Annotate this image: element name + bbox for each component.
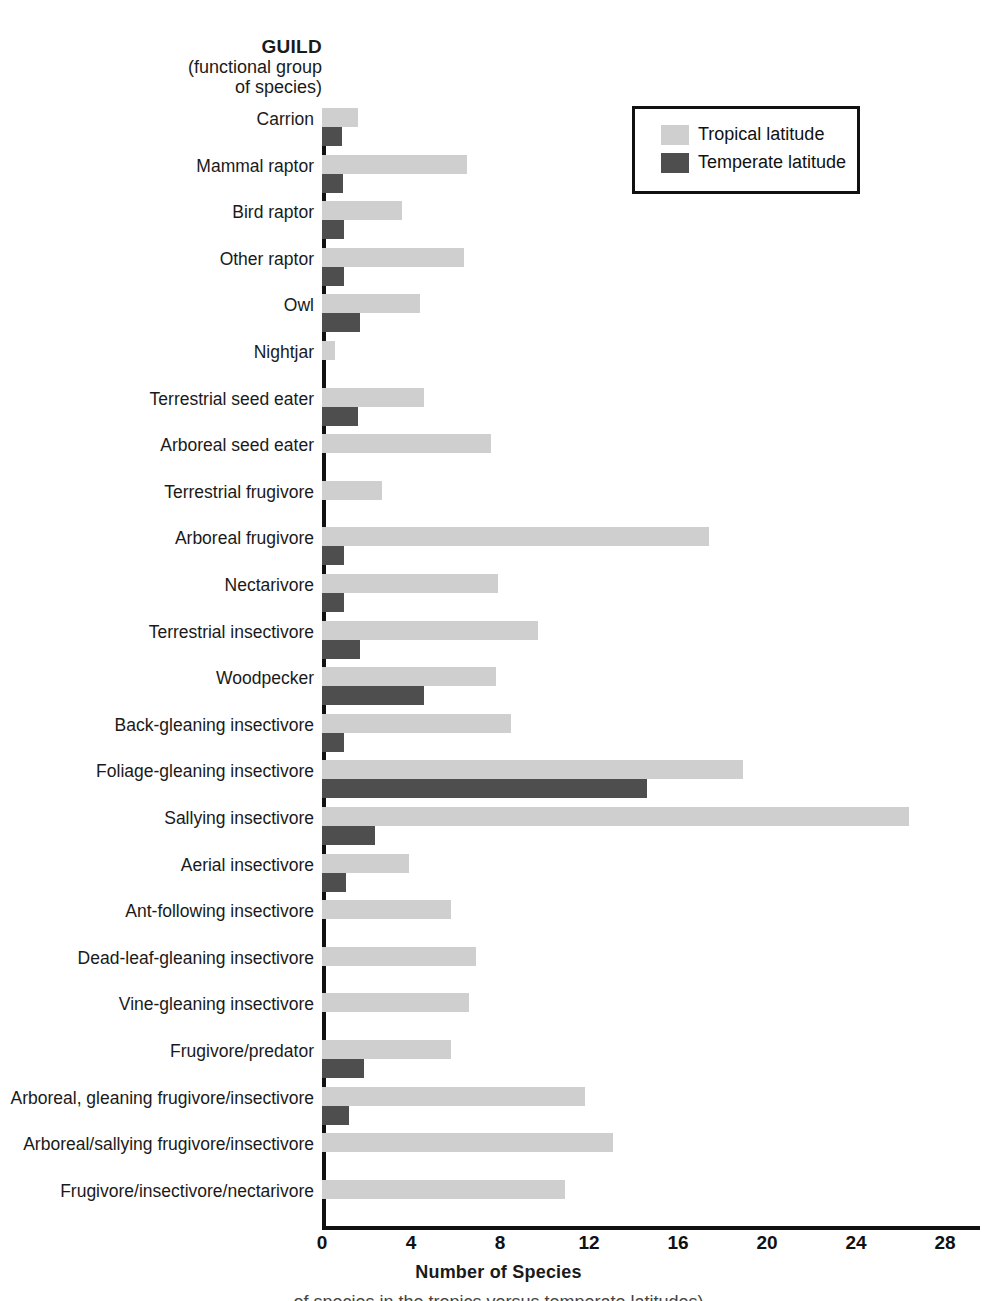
x-tick-label: 4 bbox=[387, 1232, 435, 1254]
x-tick-label: 24 bbox=[832, 1232, 880, 1254]
x-tick-label: 0 bbox=[298, 1232, 346, 1254]
bar-tropical bbox=[322, 481, 382, 500]
category-label: Mammal raptor bbox=[0, 156, 314, 177]
bar-temperate bbox=[322, 407, 358, 426]
category-label: Other raptor bbox=[0, 249, 314, 270]
plot-area bbox=[322, 108, 982, 1228]
category-label: Woodpecker bbox=[0, 668, 314, 689]
bar-tropical bbox=[322, 1133, 613, 1152]
bar-tropical bbox=[322, 201, 402, 220]
category-label: Nightjar bbox=[0, 342, 314, 363]
bar-tropical bbox=[322, 993, 469, 1012]
bar-tropical bbox=[322, 1087, 585, 1106]
category-label: Frugivore/insectivore/nectarivore bbox=[0, 1181, 314, 1202]
category-label: Arboreal seed eater bbox=[0, 435, 314, 456]
bar-tropical bbox=[322, 1040, 451, 1059]
category-label: Arboreal frugivore bbox=[0, 528, 314, 549]
bar-temperate bbox=[322, 779, 647, 798]
category-label: Arboreal/sallying frugivore/insectivore bbox=[0, 1134, 314, 1155]
bar-temperate bbox=[322, 220, 344, 239]
category-label: Terrestrial insectivore bbox=[0, 622, 314, 643]
bar-temperate bbox=[322, 546, 344, 565]
x-tick-label: 8 bbox=[476, 1232, 524, 1254]
x-tick-label: 16 bbox=[654, 1232, 702, 1254]
bar-tropical bbox=[322, 388, 424, 407]
bar-tropical bbox=[322, 807, 909, 826]
category-label: Foliage-gleaning insectivore bbox=[0, 761, 314, 782]
category-label: Frugivore/predator bbox=[0, 1041, 314, 1062]
bar-tropical bbox=[322, 760, 743, 779]
bar-tropical bbox=[322, 248, 464, 267]
y-axis-title: GUILD bbox=[70, 36, 322, 57]
bar-temperate bbox=[322, 174, 343, 193]
category-label: Nectarivore bbox=[0, 575, 314, 596]
bar-tropical bbox=[322, 341, 335, 360]
bar-temperate bbox=[322, 1106, 349, 1125]
category-label: Arboreal, gleaning frugivore/insectivore bbox=[0, 1088, 314, 1109]
category-label: Sallying insectivore bbox=[0, 808, 314, 829]
bar-tropical bbox=[322, 574, 498, 593]
bar-tropical bbox=[322, 621, 538, 640]
bar-tropical bbox=[322, 714, 511, 733]
category-label: Ant-following insectivore bbox=[0, 901, 314, 922]
bar-tropical bbox=[322, 947, 476, 966]
bar-tropical bbox=[322, 155, 467, 174]
bar-tropical bbox=[322, 434, 491, 453]
category-label: Dead-leaf-gleaning insectivore bbox=[0, 948, 314, 969]
category-label: Terrestrial seed eater bbox=[0, 389, 314, 410]
category-label: Carrion bbox=[0, 109, 314, 130]
bar-temperate bbox=[322, 686, 424, 705]
bar-tropical bbox=[322, 108, 358, 127]
bar-tropical bbox=[322, 294, 420, 313]
bar-tropical bbox=[322, 854, 409, 873]
x-axis-line bbox=[322, 1226, 980, 1230]
category-label: Aerial insectivore bbox=[0, 855, 314, 876]
y-axis-subtitle-line-1: (functional group bbox=[70, 57, 322, 77]
bar-temperate bbox=[322, 313, 360, 332]
bar-temperate bbox=[322, 267, 344, 286]
bar-temperate bbox=[322, 593, 344, 612]
bar-temperate bbox=[322, 640, 360, 659]
category-label: Vine-gleaning insectivore bbox=[0, 994, 314, 1015]
x-tick-label: 28 bbox=[921, 1232, 969, 1254]
x-tick-label: 12 bbox=[565, 1232, 613, 1254]
y-axis-subtitle-line-2: of species) bbox=[70, 77, 322, 97]
bar-tropical bbox=[322, 900, 451, 919]
category-label: Back-gleaning insectivore bbox=[0, 715, 314, 736]
figure-caption: of species in the tropics versus tempera… bbox=[0, 1292, 997, 1301]
y-axis-heading: GUILD (functional group of species) bbox=[70, 36, 322, 98]
category-label: Terrestrial frugivore bbox=[0, 482, 314, 503]
category-label: Bird raptor bbox=[0, 202, 314, 223]
bar-temperate bbox=[322, 733, 344, 752]
bar-temperate bbox=[322, 873, 346, 892]
category-label: Owl bbox=[0, 295, 314, 316]
x-tick-label: 20 bbox=[743, 1232, 791, 1254]
bar-tropical bbox=[322, 667, 496, 686]
bar-temperate bbox=[322, 826, 375, 845]
bar-tropical bbox=[322, 527, 709, 546]
bar-temperate bbox=[322, 1059, 364, 1078]
bar-tropical bbox=[322, 1180, 565, 1199]
x-axis-title: Number of Species bbox=[0, 1262, 997, 1283]
bar-temperate bbox=[322, 127, 342, 146]
bar-chart: GUILD (functional group of species) Trop… bbox=[0, 0, 997, 1301]
